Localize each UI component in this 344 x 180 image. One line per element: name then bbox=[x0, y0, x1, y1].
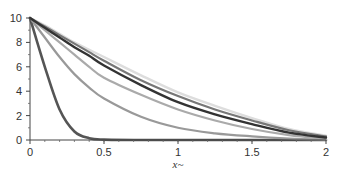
series-line-3 bbox=[30, 18, 326, 139]
series-line-6 bbox=[30, 18, 326, 138]
y-tick-label: 10 bbox=[10, 12, 22, 24]
y-tick-label: 8 bbox=[16, 36, 22, 48]
y-tick-label: 4 bbox=[16, 85, 22, 97]
series-line-2 bbox=[30, 18, 326, 140]
x-tick-label: 2 bbox=[323, 146, 329, 158]
series-line-4 bbox=[30, 18, 326, 136]
x-tick-label: 0 bbox=[27, 146, 33, 158]
series-line-1 bbox=[30, 18, 326, 140]
series-line-5 bbox=[30, 18, 326, 136]
line-chart: 00.511.52 0246810 x~ bbox=[0, 0, 344, 180]
y-tick-label: 2 bbox=[16, 110, 22, 122]
series-layer bbox=[30, 18, 326, 140]
y-tick-label: 6 bbox=[16, 61, 22, 73]
y-tick-label: 0 bbox=[16, 134, 22, 146]
x-tick-label: 1 bbox=[175, 146, 181, 158]
x-ticks: 00.511.52 bbox=[27, 140, 329, 158]
y-ticks: 0246810 bbox=[10, 12, 30, 146]
x-tick-label: 0.5 bbox=[96, 146, 111, 158]
x-tick-label: 1.5 bbox=[244, 146, 259, 158]
x-axis-label: x~ bbox=[172, 158, 184, 170]
